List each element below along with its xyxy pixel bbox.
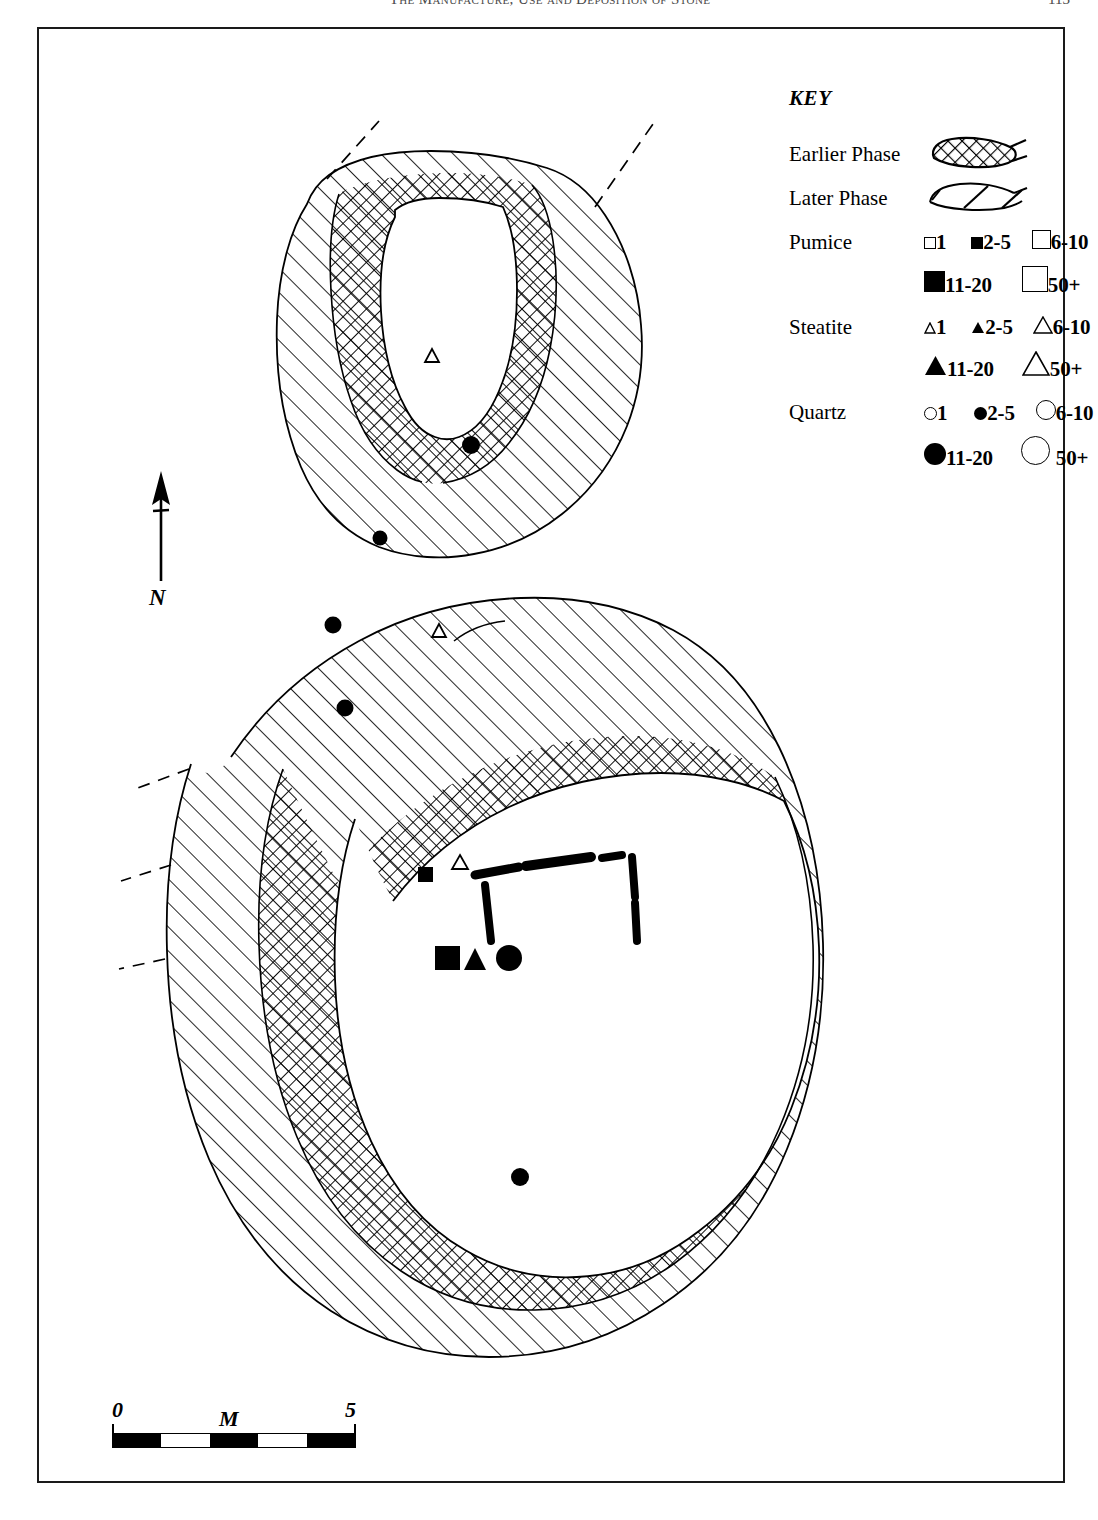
find-marker-quartz-11-20: [511, 1168, 529, 1186]
circle-open-medium-icon: [1036, 400, 1056, 420]
key-swatch-earlier-phase: [926, 134, 1030, 176]
key-item-pumice-1: 1: [924, 230, 946, 255]
key-item-steatite-11-20-text: 11-20: [947, 357, 994, 381]
running-head: The Manufacture, Use and Deposition of S…: [0, 0, 1098, 13]
key-item-steatite-1-text: 1: [936, 315, 946, 339]
square-open-tiny-icon: [924, 237, 936, 249]
lower-projection-dash-w2: [119, 959, 165, 969]
key-item-pumice-11-20-text: 11-20: [945, 273, 992, 297]
square-fill-small-icon: [971, 237, 983, 249]
key-item-quartz-1-text: 1: [937, 401, 947, 425]
find-marker-quartz-11-20: [373, 531, 388, 546]
scale-bar: 0 M 5: [112, 1381, 382, 1471]
triangle-fill-small-icon: [971, 320, 985, 333]
key-item-quartz-6-10-text: 6-10: [1056, 401, 1094, 425]
upper-structure: [219, 109, 719, 609]
hearth-slab-5: [632, 857, 635, 897]
find-marker-pumice-11-20: [435, 946, 460, 970]
square-fill-large-icon: [924, 271, 945, 292]
key-label-steatite: Steatite: [789, 315, 852, 340]
north-arrow-label: N: [149, 585, 166, 611]
find-marker-quartz-11-20: [496, 945, 522, 971]
key-item-pumice-2-5: 2-5: [971, 230, 1010, 255]
scale-bar-unit-label: M: [219, 1406, 239, 1432]
key-label-quartz: Quartz: [789, 400, 846, 425]
key-title: KEY: [789, 86, 832, 111]
key-item-pumice-6-10-text: 6-10: [1051, 230, 1089, 254]
key-item-steatite-6-10: 6-10: [1033, 315, 1091, 340]
key-item-steatite-2-5-text: 2-5: [985, 315, 1012, 339]
key-item-pumice-11-20: 11-20: [924, 271, 992, 298]
find-marker-pumice-2-5: [418, 867, 433, 882]
circle-open-large-icon: [1021, 436, 1050, 465]
key-item-quartz-50plus-text: 50+: [1056, 446, 1088, 470]
key-item-quartz-11-20: 11-20: [924, 443, 993, 471]
key-label-pumice: Pumice: [789, 230, 852, 255]
find-marker-quartz-11-20: [325, 617, 342, 634]
key-item-quartz-11-20-text: 11-20: [946, 446, 993, 470]
figure-plate: KEY Earlier Phase: [37, 27, 1065, 1483]
key-item-steatite-2-5: 2-5: [971, 315, 1012, 340]
scale-bar-segment-3: [210, 1434, 258, 1447]
key-item-steatite-50plus: 50+: [1022, 351, 1082, 382]
key-item-quartz-6-10: 6-10: [1036, 400, 1094, 426]
scale-bar-segment-5: [307, 1434, 355, 1447]
find-marker-quartz-11-20: [337, 700, 354, 717]
triangle-open-large-icon: [1022, 351, 1050, 376]
triangle-open-tiny-icon: [924, 320, 936, 332]
lower-projection-dash-w1: [121, 865, 171, 881]
scale-bar-end-label: 5: [345, 1397, 356, 1423]
scale-bar-segment-2: [161, 1434, 209, 1447]
scale-bar-segment-1: [113, 1434, 161, 1447]
key-item-quartz-50plus: 50+: [1021, 436, 1088, 471]
triangle-fill-large-icon: [924, 355, 947, 376]
key-item-quartz-1: 1: [924, 401, 947, 426]
square-open-large-icon: [1022, 266, 1048, 292]
hearth-slab-3: [602, 855, 622, 858]
key-item-steatite-1: 1: [924, 315, 946, 340]
key-items-steatite-b: 11-20 50+: [924, 351, 1082, 382]
key-item-steatite-50plus-text: 50+: [1050, 357, 1082, 381]
key-item-pumice-50plus: 50+: [1022, 266, 1080, 298]
key-swatch-later-phase: [926, 178, 1030, 220]
triangle-open-medium-icon: [1033, 316, 1053, 334]
key-item-pumice-6-10: 6-10: [1032, 230, 1089, 255]
find-marker-quartz-11-20: [462, 436, 480, 454]
key-item-quartz-2-5: 2-5: [974, 401, 1014, 426]
north-arrow: N: [131, 469, 191, 629]
scale-bar-segment-4: [258, 1434, 306, 1447]
key-items-pumice-b: 11-20 50+: [924, 266, 1080, 298]
key-item-quartz-2-5-text: 2-5: [987, 401, 1014, 425]
running-head-title: The Manufacture, Use and Deposition of S…: [170, 0, 930, 8]
key-items-pumice-a: 1 2-5 6-10: [924, 230, 1088, 255]
circle-fill-large-icon: [924, 443, 946, 465]
key-item-pumice-50plus-text: 50+: [1048, 273, 1080, 297]
key-items-quartz-a: 1 2-5 6-10: [924, 400, 1093, 426]
key-item-pumice-2-5-text: 2-5: [983, 230, 1010, 254]
key-items-quartz-b: 11-20 50+: [924, 436, 1088, 471]
key-label-later-phase: Later Phase: [789, 186, 888, 211]
map-key: KEY Earlier Phase: [750, 60, 1060, 450]
north-arrow-glyph: [131, 469, 191, 589]
upper-projection-dash-east: [595, 124, 653, 207]
key-label-earlier-phase: Earlier Phase: [789, 142, 900, 167]
lower-structure: [119, 569, 879, 1399]
page-number: 113: [1048, 0, 1070, 8]
key-item-steatite-11-20: 11-20: [924, 355, 994, 382]
scale-bar-start-label: 0: [112, 1397, 123, 1423]
lower-projection-dash-nw: [135, 769, 189, 789]
key-item-steatite-6-10-text: 6-10: [1053, 315, 1091, 339]
circle-fill-small-icon: [974, 407, 987, 420]
circle-open-tiny-icon: [924, 407, 937, 420]
hearth-slab-6: [635, 903, 637, 941]
key-item-pumice-1-text: 1: [936, 230, 946, 254]
scale-bar-segments: [112, 1433, 356, 1448]
key-items-steatite-a: 1 2-5 6-10: [924, 315, 1090, 340]
square-open-medium-icon: [1032, 230, 1051, 249]
